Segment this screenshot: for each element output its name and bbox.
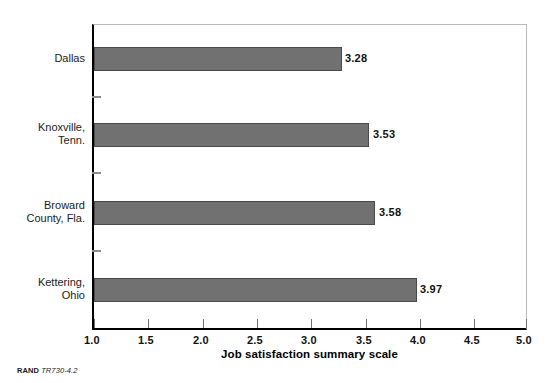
bar-value-dallas: 3.28: [345, 52, 367, 64]
figure-footer: RAND TR730-4.2: [17, 366, 78, 375]
bar-kettering: [94, 278, 417, 302]
bar-value-knoxville: 3.53: [373, 128, 395, 140]
xtick-mark-4.0: [420, 319, 421, 328]
bar-broward: [94, 201, 375, 225]
xtick-mark-3.0: [311, 319, 312, 328]
bar-dallas: [94, 47, 342, 71]
xtick-label-1.0: 1.0: [72, 334, 112, 346]
figure: Dallas Knoxville, Tenn. Broward County, …: [0, 0, 553, 383]
xtick-mark-1.0: [94, 319, 95, 328]
ytick-mark-1: [92, 96, 101, 98]
xtick-mark-2.5: [257, 319, 258, 328]
x-axis-title: Job satisfaction summary scale: [92, 348, 527, 360]
xtick-label-4.0: 4.0: [398, 334, 438, 346]
category-label-knoxville: Knoxville, Tenn.: [0, 121, 85, 147]
xtick-label-3.0: 3.0: [289, 334, 329, 346]
xtick-label-1.5: 1.5: [126, 334, 166, 346]
category-label-kettering: Kettering, Ohio: [0, 276, 85, 302]
bar-value-kettering: 3.97: [420, 283, 442, 295]
ytick-mark-2: [92, 172, 101, 174]
xtick-label-3.5: 3.5: [344, 334, 384, 346]
xtick-mark-2.0: [203, 319, 204, 328]
xtick-label-2.0: 2.0: [181, 334, 221, 346]
document-id: TR730-4.2: [41, 366, 77, 375]
xtick-label-5.0: 5.0: [504, 334, 544, 346]
bar-knoxville: [94, 123, 369, 147]
xtick-label-4.5: 4.5: [452, 334, 492, 346]
plot-area: [92, 24, 527, 330]
rand-brand: RAND: [17, 366, 39, 375]
xtick-mark-5.0: [526, 319, 527, 328]
xtick-mark-4.5: [474, 319, 475, 328]
category-label-dallas: Dallas: [0, 52, 85, 65]
xtick-label-2.5: 2.5: [235, 334, 275, 346]
bar-value-broward: 3.58: [379, 206, 401, 218]
xtick-mark-3.5: [366, 319, 367, 328]
ytick-mark-3: [92, 250, 101, 252]
xtick-mark-1.5: [148, 319, 149, 328]
category-label-broward: Broward County, Fla.: [0, 199, 85, 225]
